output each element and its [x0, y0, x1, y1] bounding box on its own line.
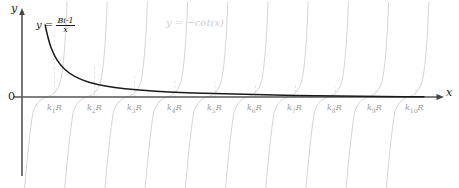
tick-label-k8: k8R: [327, 103, 342, 114]
origin-label: 0: [8, 90, 15, 103]
hyperbola-denominator: x: [56, 26, 74, 34]
tick-label-k6: k6R: [247, 103, 262, 114]
tick-label-k4: k4R: [167, 103, 182, 114]
tick-suffix-k6: R: [256, 103, 262, 112]
cot-branch-3: [105, 2, 147, 188]
cotangent-equation-label: y = −cot(x): [166, 17, 224, 28]
tick-suffix-k7: R: [296, 103, 302, 112]
y-axis-arrowhead: [19, 8, 25, 15]
cot-branch-5: [185, 2, 227, 188]
cot-branch-10: [386, 2, 428, 188]
tick-label-k7: k7R: [287, 103, 302, 114]
hyperbola-fraction: Bi-1 x: [56, 17, 74, 35]
x-axis-arrowhead: [437, 94, 445, 100]
hyperbola-curve: [45, 25, 424, 97]
tick-label-k5: k5R: [207, 103, 222, 114]
tick-suffix-k3: R: [136, 103, 142, 112]
tick-suffix-k8: R: [336, 103, 342, 112]
tick-label-k1: k1R: [47, 103, 62, 114]
tick-label-k9: k9R: [367, 103, 382, 114]
tick-suffix-k1: R: [56, 103, 62, 112]
tick-suffix-k4: R: [176, 103, 182, 112]
tick-label-k10: k10R: [405, 103, 424, 114]
hyperbola-lhs: y: [36, 19, 42, 30]
hyperbola-equation-label: y = Bi-1 x: [36, 17, 75, 35]
tick-suffix-k2: R: [96, 103, 102, 112]
figure-canvas: y x 0 y = Bi-1 x y = −cot(x) k1R k2R k3R…: [0, 0, 459, 188]
tick-suffix-k9: R: [376, 103, 382, 112]
x-axis-label: x: [446, 86, 452, 99]
tick-suffix-k10: R: [418, 103, 424, 112]
hyperbola-equals: =: [45, 19, 53, 30]
tick-label-k2: k2R: [87, 103, 102, 114]
tick-suffix-k5: R: [216, 103, 222, 112]
cot-branch-9: [346, 2, 388, 188]
cot-branches: [25, 2, 429, 188]
y-axis-label: y: [11, 2, 17, 15]
tick-label-k3: k3R: [127, 103, 142, 114]
cot-branch-4: [145, 2, 187, 188]
tick-sub-k10: 10: [410, 107, 418, 114]
